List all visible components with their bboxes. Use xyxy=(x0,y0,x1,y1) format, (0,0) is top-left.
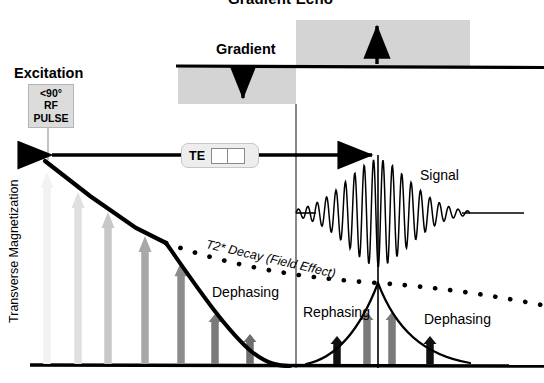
rf-label: RF xyxy=(44,100,58,111)
gradient-channel xyxy=(176,20,544,104)
magnetization-vector xyxy=(175,262,188,364)
gradient-positive-lobe xyxy=(296,20,470,66)
magnetization-vector xyxy=(41,172,54,364)
rf-pulse-box: <90° RF PULSE xyxy=(28,84,74,128)
dephasing-label-2: Dephasing xyxy=(424,312,491,326)
page-title: Gradient Echo xyxy=(228,0,333,6)
rephasing-label: Rephasing xyxy=(303,305,370,319)
te-interval-badge: TE xyxy=(181,143,259,168)
dephasing-label-1: Dephasing xyxy=(212,285,279,299)
gradient-label: Gradient xyxy=(216,42,276,57)
te-swatch xyxy=(211,148,245,164)
y-axis-label: Transverse Magnetization xyxy=(8,174,21,329)
magnetization-vector xyxy=(72,192,85,364)
magnetization-vector xyxy=(209,314,222,364)
signal-label: Signal xyxy=(420,168,459,182)
gradient-baseline xyxy=(176,66,544,68)
te-label: TE xyxy=(189,149,205,163)
magnetization-vector xyxy=(139,236,152,364)
magnetization-vector xyxy=(331,336,344,364)
magnetization-vector xyxy=(102,212,115,364)
rf-pulse-word: PULSE xyxy=(33,113,68,124)
excitation-label: Excitation xyxy=(14,66,83,81)
gradient-echo-diagram: Gradient Echo Excitation Gradient <90° R… xyxy=(0,0,544,383)
gradient-negative-lobe xyxy=(178,66,296,104)
rf-flip-angle: <90° xyxy=(40,88,62,99)
